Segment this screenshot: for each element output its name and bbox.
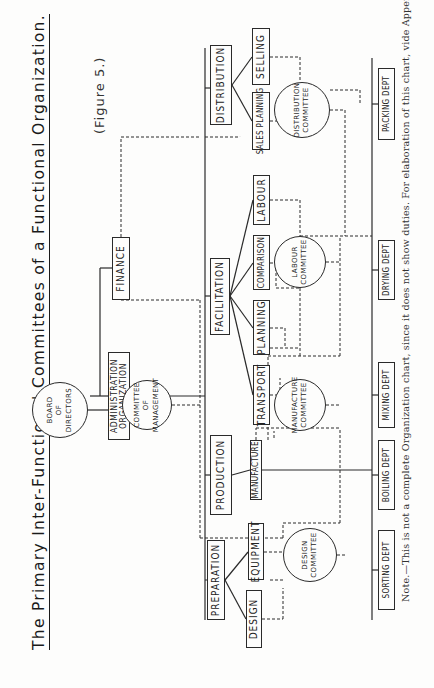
transport-node: Transport [253,365,270,425]
dist-com-line-2: Committee [302,87,311,132]
com-line-3: Management [152,378,161,433]
com-line-2: of [142,400,151,410]
mixing-dept-node: Mixing Dept [378,362,395,428]
preparation-node: Preparation [207,540,225,620]
selling-node: Selling [252,28,270,85]
comparison-node: Comparison [253,235,270,290]
finance-node: Finance [112,237,130,300]
com-line-1: Committee [133,382,142,427]
figure-label: (Figure 5.) [92,57,107,134]
dist-com-line-1: Distribution [293,83,302,138]
manufacture-committee-node: Manufacture Committee [274,379,326,431]
board-of-directors-node: Board of Directors [32,382,88,438]
distribution-committee-node: Distribution Committee [274,82,330,138]
design-com-line-1: Design [301,540,310,569]
board-line-1: Board [46,396,55,423]
labour-com-line-2: Committee [300,239,309,284]
mfg-com-line-2: Committee [300,382,309,427]
design-com-line-2: Committee [310,532,319,577]
design-committee-node: Design Committee [283,528,337,582]
boiling-dept-node: Boiling Dept [378,440,395,510]
board-line-2: of [55,405,64,415]
packing-dept-node: Packing Dept [378,68,395,140]
org-chart-diagram: The Primary Inter-Functional Committees … [0,0,434,688]
labour-node: Labour [253,175,270,225]
board-line-3: Directors [65,388,74,432]
distribution-node: Distribution [210,45,232,125]
committee-of-management-node: Committee of Management [122,380,172,430]
chart-title: The Primary Inter-Functional Committees … [30,14,50,650]
mfg-com-line-1: Manufacture [291,376,300,433]
equipment-node: Equipment [248,523,264,580]
labour-com-line-1: Labour [291,246,300,277]
scanned-page: The Primary Inter-Functional Committees … [0,0,434,688]
sorting-dept-node: Sorting Dept [378,530,395,610]
manufacture-node: Manufacture [250,440,262,500]
facilitation-node: Facilitation [210,258,230,335]
design-node: Design [246,590,262,648]
planning-node: Planning [253,300,270,355]
drying-dept-node: Drying Dept [378,240,395,300]
footnote: Note.—This is not a complete Organizatio… [400,0,411,602]
production-node: Production [210,435,232,515]
labour-committee-node: Labour Committee [274,236,326,288]
sales-planning-node: Sales Planning [252,92,270,150]
